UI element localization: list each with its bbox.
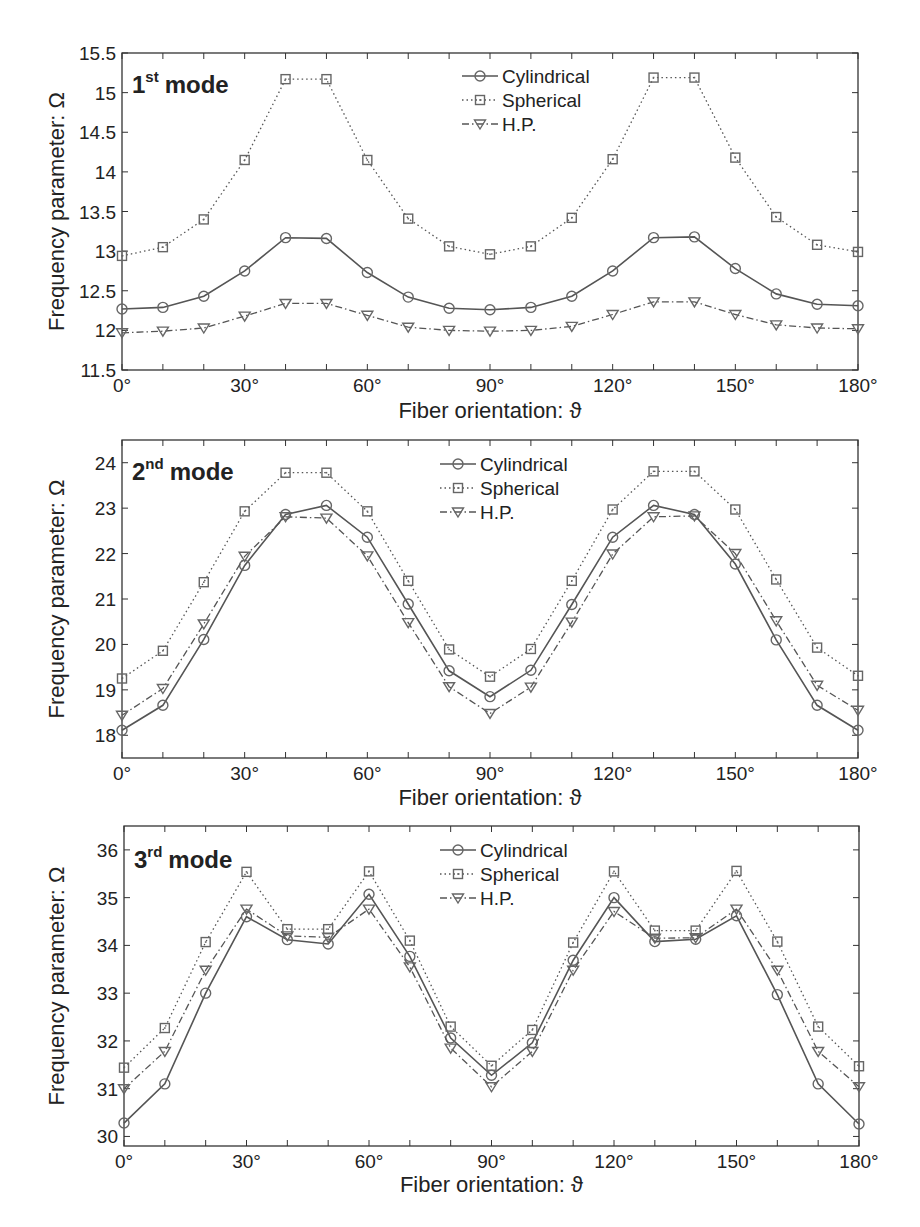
x-axis-label: Fiber orientation: ϑ <box>398 398 581 423</box>
series-spherical <box>118 73 863 260</box>
data-point-marker <box>812 681 823 690</box>
y-tick-label: 30 <box>97 1126 118 1147</box>
x-tick-label: 90° <box>476 763 505 784</box>
panel-1: 0°30°60°90°120°150°180°11.51212.51313.51… <box>44 43 878 423</box>
data-point-marker <box>198 620 209 629</box>
legend-label: Spherical <box>502 90 581 111</box>
y-tick-label: 15 <box>95 83 116 104</box>
x-tick-label: 120° <box>593 375 632 396</box>
legend-label: Spherical <box>480 864 559 885</box>
legend-label: Cylindrical <box>480 840 568 861</box>
x-tick-label: 90° <box>477 1151 506 1172</box>
series-hp <box>117 512 864 720</box>
y-tick-label: 34 <box>97 935 119 956</box>
y-tick-label: 32 <box>97 1031 118 1052</box>
y-tick-label: 36 <box>97 840 118 861</box>
y-tick-label: 11.5 <box>80 360 116 381</box>
panel-2: 0°30°60°90°120°150°180°18192021222324Fib… <box>44 440 878 810</box>
x-tick-label: 120° <box>593 763 632 784</box>
x-axis-label: Fiber orientation: ϑ <box>398 785 581 810</box>
y-tick-label: 21 <box>95 589 116 610</box>
y-tick-label: 13 <box>95 241 116 262</box>
data-point-marker <box>157 327 168 336</box>
x-tick-label: 150° <box>716 375 755 396</box>
panel-title: 3rdmode <box>134 843 232 873</box>
y-tick-label: 23 <box>95 498 116 519</box>
x-tick-label: 180° <box>838 375 877 396</box>
y-tick-label: 13.5 <box>79 202 116 223</box>
legend: CylindricalSphericalH.P. <box>440 454 568 523</box>
x-tick-label: 60° <box>355 1151 384 1172</box>
panel-3: 0°30°60°90°120°150°180°30313233343536Fib… <box>44 826 879 1197</box>
legend-label: H.P. <box>502 114 537 135</box>
y-axis-label: Frequency parameter: Ω <box>44 92 69 331</box>
legend-label: H.P. <box>480 502 515 523</box>
legend-label: Cylindrical <box>480 454 568 475</box>
x-tick-label: 180° <box>838 763 877 784</box>
x-tick-label: 60° <box>353 763 382 784</box>
legend-label: H.P. <box>480 888 515 909</box>
y-axis-label: Frequency parameter: Ω <box>44 480 69 719</box>
legend-label: Cylindrical <box>502 66 590 87</box>
legend-label: Spherical <box>480 478 559 499</box>
legend: CylindricalSphericalH.P. <box>462 66 590 135</box>
y-tick-label: 12 <box>95 320 116 341</box>
y-tick-label: 19 <box>95 680 116 701</box>
series-cylindrical <box>117 232 863 315</box>
y-tick-label: 22 <box>95 544 116 565</box>
y-tick-label: 12.5 <box>79 281 116 302</box>
x-tick-label: 30° <box>230 375 259 396</box>
series-spherical <box>118 467 863 683</box>
x-tick-label: 0° <box>113 763 131 784</box>
x-tick-label: 180° <box>839 1151 878 1172</box>
panel-title: 1stmode <box>132 68 229 98</box>
x-tick-label: 120° <box>594 1151 633 1172</box>
x-tick-label: 30° <box>230 763 259 784</box>
y-tick-label: 33 <box>97 983 118 1004</box>
panel-title: 2ndmode <box>132 455 234 485</box>
y-tick-label: 35 <box>97 888 118 909</box>
x-tick-label: 0° <box>115 1151 133 1172</box>
figure: 0°30°60°90°120°150°180°11.51212.51313.51… <box>0 0 920 1227</box>
x-tick-label: 90° <box>476 375 505 396</box>
series-hp <box>117 298 864 338</box>
chart-canvas: 0°30°60°90°120°150°180°11.51212.51313.51… <box>0 0 920 1227</box>
x-tick-label: 150° <box>716 763 755 784</box>
legend: CylindricalSphericalH.P. <box>440 840 568 909</box>
y-tick-label: 15.5 <box>79 43 116 64</box>
x-tick-label: 60° <box>353 375 382 396</box>
y-axis-label: Frequency parameter: Ω <box>44 867 69 1106</box>
x-axis-label: Fiber orientation: ϑ <box>400 1172 583 1197</box>
y-tick-label: 18 <box>95 725 116 746</box>
y-tick-label: 14 <box>95 162 117 183</box>
y-tick-label: 20 <box>95 634 116 655</box>
x-tick-label: 150° <box>717 1151 756 1172</box>
y-tick-label: 14.5 <box>79 122 116 143</box>
y-tick-label: 31 <box>97 1079 118 1100</box>
x-tick-label: 30° <box>232 1151 261 1172</box>
y-tick-label: 24 <box>95 453 117 474</box>
